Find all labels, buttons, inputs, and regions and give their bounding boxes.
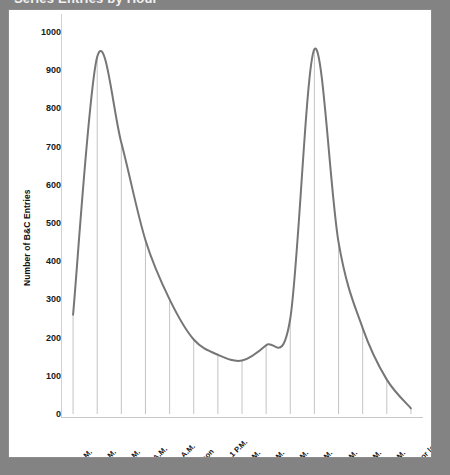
y-tick-label: 200 — [25, 333, 61, 343]
drop-lines-group — [73, 49, 411, 414]
y-tick-label: 300 — [25, 294, 61, 304]
y-axis-tick-labels: 01002003004005006007008009001000 — [9, 10, 61, 458]
series-line-path — [73, 48, 411, 408]
chart-frame: Number of B&C Entries 010020030040050060… — [8, 9, 432, 458]
y-tick-label: 100 — [25, 371, 61, 381]
x-tick-label: Noon - 1 P.M. — [208, 437, 249, 458]
line-chart-svg — [61, 14, 423, 418]
plot-wrapper: Number of B&C Entries 010020030040050060… — [9, 10, 432, 458]
y-tick-label: 600 — [25, 180, 61, 190]
y-tick-label: 800 — [25, 103, 61, 113]
y-tick-label: 0 — [25, 409, 61, 419]
x-tick-label: 9 - 10 A.M. — [136, 444, 170, 458]
chart-title-strip: Series Entries by Hour — [0, 0, 450, 9]
chart-screenshot: Series Entries by Hour Number of B&C Ent… — [0, 0, 450, 475]
x-tick-label: 6 - 7 A.M. — [64, 448, 94, 458]
y-tick-label: 400 — [25, 256, 61, 266]
x-axis-tick-labels: 6 - 7 A.M.7 - 8 A.M.8 - 9 A.M.9 - 10 A.M… — [61, 420, 423, 458]
y-tick-label: 900 — [25, 65, 61, 75]
plot-area — [61, 14, 423, 418]
y-tick-label: 500 — [25, 218, 61, 228]
y-tick-label: 1000 — [25, 27, 61, 37]
page-title: Series Entries by Hour — [14, 0, 158, 6]
y-tick-label: 700 — [25, 142, 61, 152]
